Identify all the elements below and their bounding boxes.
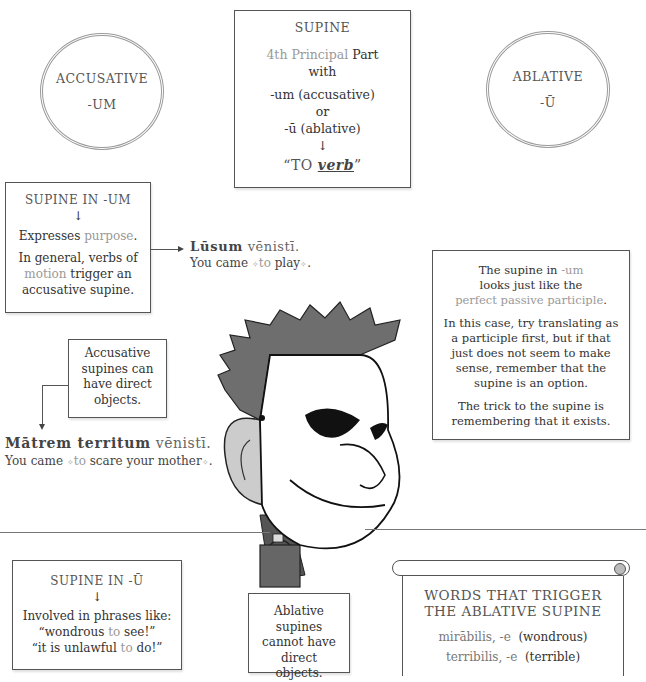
participle-note-box: The supine in -umlooks just like theperf… (432, 250, 630, 440)
ablative-direct-objects-box: Ablative supines cannot have direct obje… (248, 593, 350, 673)
to-verb: “TO verb” (235, 157, 410, 174)
ablative-ending: -Ū (540, 90, 556, 116)
supine-um-title: SUPINE IN -UM (6, 192, 150, 208)
ablative-label: ABLATIVE (513, 64, 583, 90)
supine-definition-box: SUPINE 4th Principal Part with -um (accu… (234, 10, 411, 188)
translation-advice: In this case, try translating as a parti… (441, 316, 621, 391)
down-arrow-icon: ↓ (13, 589, 181, 605)
translation: You came ✧to scare your mother✧. (5, 452, 212, 472)
or-text: or (235, 103, 410, 120)
down-arrow-icon: ↓ (235, 137, 410, 154)
cartoon-character-illustration (210, 280, 430, 590)
connector-line (42, 385, 43, 425)
with-text: with (235, 63, 410, 80)
trigger-words-scroll: WORDS THAT TRIGGER THE ABLATIVE SUPINE m… (392, 560, 632, 670)
arrow-head-icon (178, 246, 184, 252)
principal-part: 4th Principal Part (235, 46, 410, 63)
translation: You came ✧to play✧. (190, 255, 311, 273)
accusative-label: ACCUSATIVE (56, 66, 148, 92)
motion-verbs-text: In general, verbs ofmotion trigger anacc… (6, 250, 150, 298)
section-divider (365, 529, 646, 530)
scroll-roll-end-icon (614, 563, 626, 575)
phrases-intro: Involved in phrases like: (13, 608, 181, 624)
purpose-text: Expresses purpose. (6, 228, 150, 244)
connector-line (151, 249, 179, 250)
accusative-ending: -UM (87, 92, 116, 118)
section-divider (0, 532, 270, 533)
trick-text: The trick to the supine is remembering t… (441, 399, 621, 429)
supine-u-box: SUPINE IN -Ū ↓ Involved in phrases like:… (12, 560, 182, 670)
accusative-direct-objects-box: Accusative supines can have direct objec… (68, 339, 167, 418)
matrem-example: Mātrem territum vēnistī. You came ✧to sc… (5, 434, 212, 472)
accusative-ending-text: -um (accusative) (235, 86, 410, 103)
supine-title: SUPINE (235, 19, 410, 36)
supine-um-box: SUPINE IN -UM ↓ Expresses purpose. In ge… (5, 182, 151, 313)
scroll-body: WORDS THAT TRIGGER THE ABLATIVE SUPINE m… (402, 576, 624, 676)
supine-u-title: SUPINE IN -Ū (13, 573, 181, 589)
connector-line (42, 385, 68, 386)
accusative-circle: ACCUSATIVE -UM (40, 33, 164, 150)
latin-sentence: Mātrem territum vēnistī. (5, 434, 212, 452)
ablative-circle: ABLATIVE -Ū (486, 31, 610, 148)
trigger-word-terribilis: terribilis, -e (terrible) (403, 647, 623, 667)
phrase-unlawful: “it is unlawful to do!” (13, 640, 181, 656)
scroll-roll (392, 560, 630, 576)
ppp-line: The supine in -umlooks just like theperf… (441, 263, 621, 308)
phrase-wondrous: “wondrous to see!” (13, 624, 181, 640)
lusum-example: Lūsum vēnistī. You came ✧to play✧. (190, 238, 311, 273)
arrow-head-icon (39, 424, 45, 430)
trigger-word-mirabilis: mirābilis, -e (wondrous) (403, 627, 623, 647)
down-arrow-icon: ↓ (6, 208, 150, 224)
ablative-ending-text: -ū (ablative) (235, 120, 410, 137)
latin-sentence: Lūsum vēnistī. (190, 238, 311, 255)
